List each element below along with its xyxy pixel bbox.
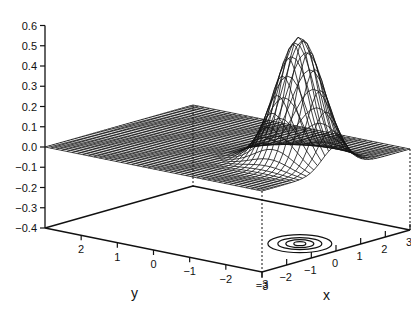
floor-plane — [45, 186, 410, 272]
y-tick-label: 0 — [150, 258, 156, 270]
z-tick-label: 0.0 — [22, 141, 37, 153]
y-tick-label: 2 — [78, 243, 84, 255]
z-axis: 0.60.50.40.30.20.10.0−0.1−0.2−0.3−0.4 — [15, 20, 45, 235]
y-tick-label: −2 — [220, 273, 233, 285]
x-tick-label: 2 — [381, 243, 387, 255]
z-tick-label: −0.4 — [15, 222, 37, 234]
y-axis: 210−1−2−3 — [78, 235, 268, 292]
z-tick-label: 0.4 — [22, 60, 37, 72]
y-axis-title: y — [131, 285, 138, 301]
z-tick-label: −0.1 — [15, 161, 37, 173]
z-tick-label: 0.3 — [22, 80, 37, 92]
x-tick-label: −3 — [256, 278, 269, 290]
x-tick-label: −2 — [279, 271, 292, 283]
y-tick-label: −1 — [183, 265, 196, 277]
x-tick-label: 0 — [332, 257, 338, 269]
contour-plot — [268, 235, 332, 253]
z-tick-label: 0.1 — [22, 121, 37, 133]
x-axis-title: x — [323, 287, 330, 303]
surface-plot: 0.60.50.40.30.20.10.0−0.1−0.2−0.3−0.4 21… — [0, 0, 411, 314]
x-tick-label: 1 — [357, 250, 363, 262]
z-tick-label: −0.3 — [15, 202, 37, 214]
z-tick-label: 0.6 — [22, 20, 37, 32]
y-tick-label: 1 — [114, 251, 120, 263]
x-tick-label: 3 — [406, 236, 411, 248]
z-tick-label: 0.2 — [22, 101, 37, 113]
x-tick-label: −1 — [304, 264, 317, 276]
z-tick-label: 0.5 — [22, 40, 37, 52]
surface-mesh — [45, 37, 410, 191]
z-tick-label: −0.2 — [15, 182, 37, 194]
x-axis: −3−2−10123 — [256, 224, 411, 290]
